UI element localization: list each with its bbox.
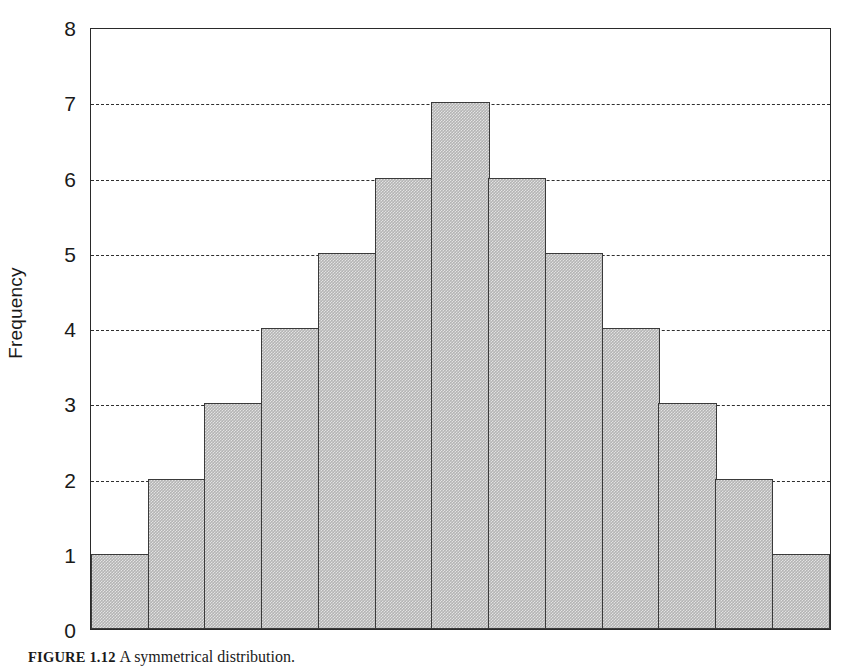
bar	[772, 554, 830, 629]
y-axis-tick-6: 6	[36, 168, 76, 189]
bar	[545, 253, 603, 629]
bar	[148, 479, 206, 630]
y-axis-tick-5: 5	[36, 243, 76, 264]
bar	[91, 554, 149, 629]
figure-container: Frequency 012345678 FIGURE 1.12 A symmet…	[0, 0, 851, 666]
bar	[488, 178, 546, 630]
y-axis-tick-3: 3	[36, 394, 76, 415]
y-axis-tick-1: 1	[36, 544, 76, 565]
bar-series	[91, 29, 830, 629]
figure-caption: FIGURE 1.12 A symmetrical distribution.	[28, 648, 828, 666]
bar	[715, 479, 773, 630]
bar	[318, 253, 376, 629]
bar	[658, 403, 716, 629]
bar	[204, 403, 262, 629]
figure-caption-text: A symmetrical distribution.	[119, 648, 295, 665]
y-axis-tick-2: 2	[36, 469, 76, 490]
bar	[261, 328, 319, 629]
y-axis-tick-8: 8	[36, 18, 76, 39]
y-axis-tick-0: 0	[36, 620, 76, 641]
bar	[431, 102, 489, 629]
y-axis-tick-7: 7	[36, 93, 76, 114]
y-axis-tick-4: 4	[36, 319, 76, 340]
bar	[375, 178, 433, 630]
figure-caption-number: FIGURE 1.12	[28, 649, 116, 665]
bar	[602, 328, 660, 629]
y-axis-tick-labels: 012345678	[0, 0, 90, 666]
plot-area	[90, 28, 831, 630]
